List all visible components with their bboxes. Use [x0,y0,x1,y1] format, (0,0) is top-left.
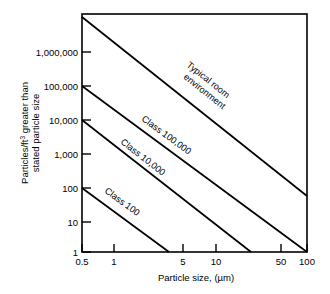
x-tick-label-100: 100 [299,256,315,267]
y-axis-title-line1: Particles/ft3 greater than [19,82,30,184]
y-tick-label-10000: 10,000 [49,115,78,126]
chart-figure: 1,000,000 100,000 10,000 1,000 100 10 1 … [0,0,330,294]
data-series-lines [82,17,307,252]
y-axis-tick-labels: 1,000,000 100,000 10,000 1,000 100 10 1 [36,47,78,258]
y-axis-ticks [82,52,91,252]
y-tick-label-100000: 100,000 [44,81,78,92]
y-tick-label-1000: 1,000 [54,149,78,160]
x-axis-tick-labels: 0.5 1 5 10 50 100 [75,256,315,267]
x-tick-label-0-5: 0.5 [75,256,88,267]
x-axis-ticks [82,244,307,252]
x-axis-title: Particle size, (µm) [158,272,234,283]
y-tick-label-10: 10 [67,217,78,228]
x-tick-label-1: 1 [111,256,116,267]
y-axis-title-line2: stated particle size [30,94,41,173]
series-label-class-100: Class 100 [103,186,142,218]
particle-size-log-log-chart: 1,000,000 100,000 10,000 1,000 100 10 1 … [0,0,330,294]
x-tick-label-50: 50 [276,256,287,267]
y-axis-title-line1-main: Particles/ft [19,139,30,184]
y-tick-label-1000000: 1,000,000 [36,47,78,58]
y-tick-label-100: 100 [62,183,78,194]
x-tick-label-5: 5 [180,256,185,267]
y-axis-title: Particles/ft3 greater than stated partic… [19,82,41,184]
series-labels: Typical room environment Class 100,000 C… [103,60,232,218]
x-tick-label-10: 10 [211,256,222,267]
y-axis-title-line1-tail: greater than [19,82,30,136]
plot-frame [82,14,307,252]
